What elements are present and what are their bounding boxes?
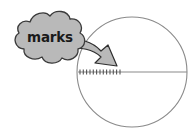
callout-label: marks	[27, 29, 73, 45]
diagram-canvas: marks	[0, 0, 192, 135]
figure-root: marks	[0, 0, 192, 135]
